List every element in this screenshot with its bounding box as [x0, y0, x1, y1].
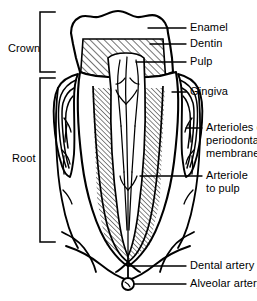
label-arterioles-periodontal-line3: membrane — [206, 147, 257, 160]
label-dentin: Dentin — [190, 37, 222, 50]
label-arteriole-to-pulp-line1: Arteriole — [206, 169, 248, 182]
label-arterioles-periodontal-line1: Arterioles of — [206, 121, 257, 134]
label-arterioles-periodontal-line2: periodontal — [206, 134, 257, 147]
label-alveolar-artery: Alveolar artery — [190, 277, 257, 290]
label-pulp: Pulp — [190, 55, 212, 68]
label-gingiva: Gingiva — [190, 85, 228, 98]
label-root: Root — [12, 152, 36, 165]
label-dental-artery: Dental artery — [190, 259, 254, 272]
tooth-anatomy-diagram: Crown Root Enamel Dentin Pulp Gingiva Ar… — [0, 0, 257, 301]
label-arteriole-to-pulp-line2: to pulp — [206, 182, 240, 195]
label-enamel: Enamel — [190, 21, 228, 34]
label-crown: Crown — [8, 42, 40, 55]
